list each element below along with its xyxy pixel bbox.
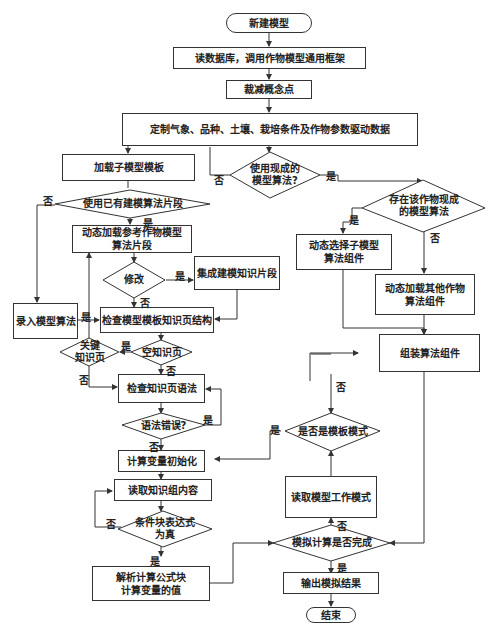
dyn-load-other-box: 动态加载其他作物 算法组件 (375, 274, 475, 315)
label-yes: 是 (81, 309, 91, 324)
label-no: 否 (336, 379, 346, 394)
parse-formula-box: 解析计算公式块 计算变量的值 (92, 566, 210, 601)
label-yes: 是 (121, 338, 131, 353)
customize-box: 定制气象、品种、土壤、栽培条件及作物参数驱动数据 (122, 113, 418, 146)
label-yes: 是 (337, 560, 347, 575)
label-yes: 是 (326, 168, 336, 183)
label-yes: 是 (150, 553, 160, 568)
label-no: 否 (79, 372, 89, 387)
modify-text: 修改 (103, 262, 165, 298)
syntax-error-label: 语法错误? (141, 420, 187, 432)
label-no: 否 (43, 193, 53, 208)
condition-true-label: 条件块表达式 为真 (135, 517, 195, 541)
read-group-box: 读取知识组内容 (114, 479, 212, 501)
label-no: 否 (214, 172, 224, 187)
read-mode-box: 读取模型工作模式 (285, 476, 377, 518)
cut-concepts-box: 裁减概念点 (226, 80, 312, 99)
label-no: 否 (149, 439, 159, 454)
is-template-text: 是否是模板模式 (285, 413, 380, 451)
parse-formula-label: 解析计算公式块 计算变量的值 (116, 571, 186, 597)
output-label: 输出模拟结果 (301, 577, 361, 590)
label-yes: 是 (175, 268, 185, 283)
end-label: 结束 (321, 609, 341, 622)
check-structure-box: 检查模型模板知识页结构 (100, 307, 214, 333)
input-alg-label: 录入模型算法 (16, 315, 76, 328)
key-page-label: 关键 知识页 (75, 340, 105, 364)
exists-crop-alg-text: 存在该作物现成 的模型算法 (362, 180, 485, 232)
start-label: 新建模型 (249, 17, 289, 30)
integrate-box: 集成建模知识片段 (194, 256, 280, 290)
use-existing-fragment-text: 使用已有建模算法片段 (55, 190, 210, 218)
dyn-load-ref-box: 动态加载参考作物模型 算法片段 (72, 225, 192, 253)
cut-concepts-label: 裁减概念点 (244, 83, 294, 96)
assemble-box: 组装算法组件 (379, 334, 480, 372)
init-vars-box: 计算变量初始化 (118, 450, 205, 472)
start-terminal: 新建模型 (226, 13, 312, 33)
dyn-select-label: 动态选择子模型 算法组件 (309, 239, 379, 265)
label-no: 否 (430, 230, 440, 245)
empty-page-label: 空知识页 (142, 347, 182, 359)
load-template-box: 加载子模型模板 (62, 154, 195, 181)
input-alg-box: 录入模型算法 (13, 303, 78, 339)
key-page-text: 关键 知识页 (60, 338, 119, 366)
customize-label: 定制气象、品种、土壤、栽培条件及作物参数驱动数据 (150, 123, 390, 136)
label-no: 否 (337, 518, 347, 533)
use-existing-alg-label: 使用现成的 模型算法? (250, 163, 300, 187)
read-group-label: 读取知识组内容 (128, 484, 198, 497)
read-db-label: 读数据库，调用作物模型通用框架 (195, 52, 345, 65)
condition-true-text: 条件块表达式 为真 (118, 511, 212, 547)
dyn-select-box: 动态选择子模型 算法组件 (296, 234, 392, 270)
exists-crop-alg-label: 存在该作物现成 的模型算法 (389, 194, 459, 218)
label-yes: 是 (143, 215, 153, 230)
use-existing-alg-text: 使用现成的 模型算法? (230, 152, 320, 198)
syntax-error-text: 语法错误? (122, 413, 205, 439)
label-no: 否 (106, 516, 116, 531)
output-box: 输出模拟结果 (283, 572, 379, 594)
is-template-label: 是否是模板模式 (298, 426, 368, 438)
use-existing-fragment-label: 使用已有建模算法片段 (83, 198, 183, 210)
label-yes: 是 (203, 412, 213, 427)
init-vars-label: 计算变量初始化 (127, 455, 197, 468)
label-yes: 是 (349, 212, 359, 227)
check-syntax-box: 检查知识页语法 (118, 374, 205, 403)
label-no: 否 (140, 295, 150, 310)
check-structure-label: 检查模型模板知识页结构 (102, 314, 212, 327)
label-no: 否 (166, 363, 176, 378)
read-db-box: 读数据库，调用作物模型通用框架 (173, 47, 366, 69)
label-yes: 是 (270, 422, 280, 437)
sim-done-text: 模拟计算是否完成 (273, 525, 390, 561)
flowchart: 新建模型 读数据库，调用作物模型通用框架 裁减概念点 定制气象、品种、土壤、栽培… (0, 0, 500, 631)
read-mode-label: 读取模型工作模式 (291, 491, 371, 504)
assemble-label: 组装算法组件 (400, 347, 460, 360)
dyn-load-other-label: 动态加载其他作物 算法组件 (385, 282, 465, 308)
sim-done-label: 模拟计算是否完成 (292, 537, 372, 549)
empty-page-text: 空知识页 (131, 340, 192, 365)
load-template-label: 加载子模型模板 (94, 161, 164, 174)
integrate-label: 集成建模知识片段 (197, 267, 277, 280)
dyn-load-ref-label: 动态加载参考作物模型 算法片段 (82, 226, 182, 252)
modify-label: 修改 (124, 274, 144, 286)
end-terminal: 结束 (306, 607, 356, 623)
check-syntax-label: 检查知识页语法 (127, 382, 197, 395)
